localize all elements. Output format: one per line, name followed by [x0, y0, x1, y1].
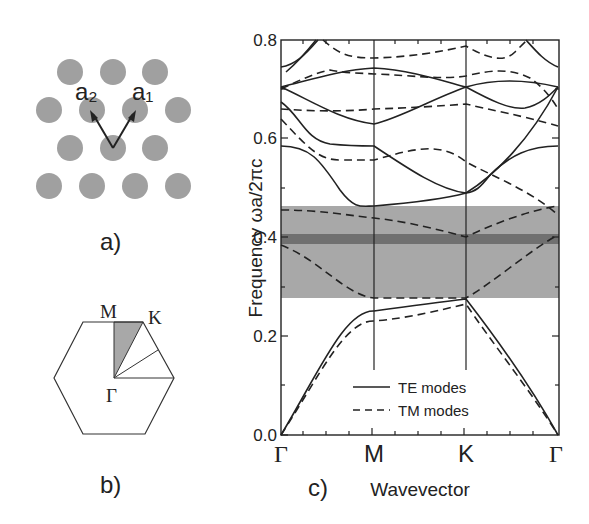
svg-text:0.8: 0.8 [253, 31, 277, 50]
lattice-circles [36, 59, 191, 199]
midgap-band [281, 234, 559, 244]
brillouin-zone-panel: M K Γ b) [54, 301, 174, 498]
svg-text:0.6: 0.6 [253, 129, 277, 148]
vector-label-a2: a₂ [75, 78, 98, 105]
legend-tm-label: TM modes [398, 402, 469, 419]
vector-label-a1: a₁ [132, 78, 153, 105]
lattice-panel: a₂ a₁ a) [36, 59, 191, 255]
svg-text:K: K [458, 440, 474, 467]
svg-text:Γ: Γ [274, 441, 288, 467]
panel-a-label: a) [100, 228, 121, 255]
chart-legend: TE modes TM modes [353, 379, 469, 419]
band-structure-chart: 0.0 0.2 0.4 0.6 0.8 Γ M K Γ Frequency ωa… [245, 31, 563, 501]
panel-c-label: c) [308, 474, 328, 501]
svg-text:M: M [364, 440, 384, 467]
svg-text:Γ: Γ [549, 441, 563, 467]
point-label-m: M [100, 301, 117, 322]
photonic-bandgap [281, 206, 559, 298]
x-axis-label: Wavevector [370, 479, 470, 500]
point-label-k: K [148, 307, 162, 328]
svg-text:0.2: 0.2 [253, 327, 277, 346]
figure: a₂ a₁ a) M K Γ b) [0, 0, 589, 524]
legend-te-label: TE modes [398, 379, 466, 396]
panel-b-label: b) [100, 471, 121, 498]
irreducible-wedge [114, 322, 143, 378]
point-label-gamma: Γ [106, 385, 117, 406]
y-axis-label: Frequency ωa/2πc [245, 159, 266, 318]
x-tick-labels: Γ M K Γ [274, 440, 563, 467]
